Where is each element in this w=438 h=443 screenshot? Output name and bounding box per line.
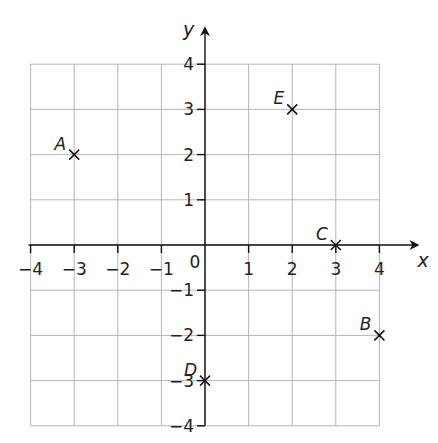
point-label: D — [184, 360, 197, 380]
y-tick-label: −4 — [169, 416, 194, 436]
x-tick-label: −3 — [62, 259, 87, 279]
point-label: C — [316, 224, 328, 244]
x-tick-label: −4 — [18, 259, 43, 279]
x-tick-label: 4 — [374, 259, 385, 279]
y-axis-label: y — [182, 18, 195, 40]
point-label: B — [360, 314, 372, 334]
axes — [29, 28, 418, 426]
y-tick-label: 3 — [183, 99, 194, 119]
y-tick-label: −1 — [169, 280, 194, 300]
origin-label: 0 — [190, 252, 201, 272]
y-tick-label: 1 — [183, 190, 194, 210]
x-tick-label: −1 — [149, 259, 174, 279]
x-axis-label: x — [416, 249, 429, 271]
point-b: B — [360, 314, 385, 340]
y-tick-label: 4 — [183, 54, 194, 74]
point-a: A — [54, 134, 80, 160]
coordinate-plane: xy−4−3−2−112344321−1−2−3−40 ABCDE — [0, 0, 438, 443]
point-label: E — [273, 88, 284, 108]
tick-labels: xy−4−3−2−112344321−1−2−3−40 — [18, 18, 429, 436]
point-e: E — [273, 88, 297, 114]
x-tick-label: 1 — [243, 259, 254, 279]
x-tick-label: −2 — [105, 259, 130, 279]
data-points: ABCDE — [54, 88, 385, 385]
x-tick-label: 2 — [287, 259, 298, 279]
point-c: C — [316, 224, 341, 250]
y-tick-label: −2 — [169, 325, 194, 345]
x-tick-label: 3 — [330, 259, 341, 279]
y-tick-label: 2 — [183, 145, 194, 165]
point-label: A — [54, 134, 67, 154]
